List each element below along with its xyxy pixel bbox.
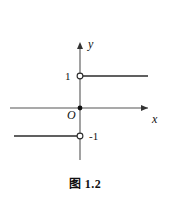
origin-point-marker bbox=[78, 106, 83, 111]
open-endpoint-marker-positive bbox=[77, 73, 83, 79]
y-axis-label: y bbox=[88, 38, 93, 50]
origin-label: O bbox=[67, 109, 76, 121]
x-axis-arrow-icon bbox=[141, 105, 148, 111]
y-axis-arrow-icon bbox=[77, 42, 83, 49]
open-endpoint-marker-negative bbox=[77, 133, 83, 139]
y-tick-label-positive-one: 1 bbox=[65, 71, 71, 82]
coordinate-plot bbox=[0, 0, 170, 170]
figure-caption: 图 1.2 bbox=[0, 174, 170, 192]
y-tick-label-negative-one: -1 bbox=[89, 131, 98, 142]
figure-container: y x O 1 -1 图 1.2 bbox=[0, 0, 170, 199]
x-axis-label: x bbox=[152, 113, 157, 125]
